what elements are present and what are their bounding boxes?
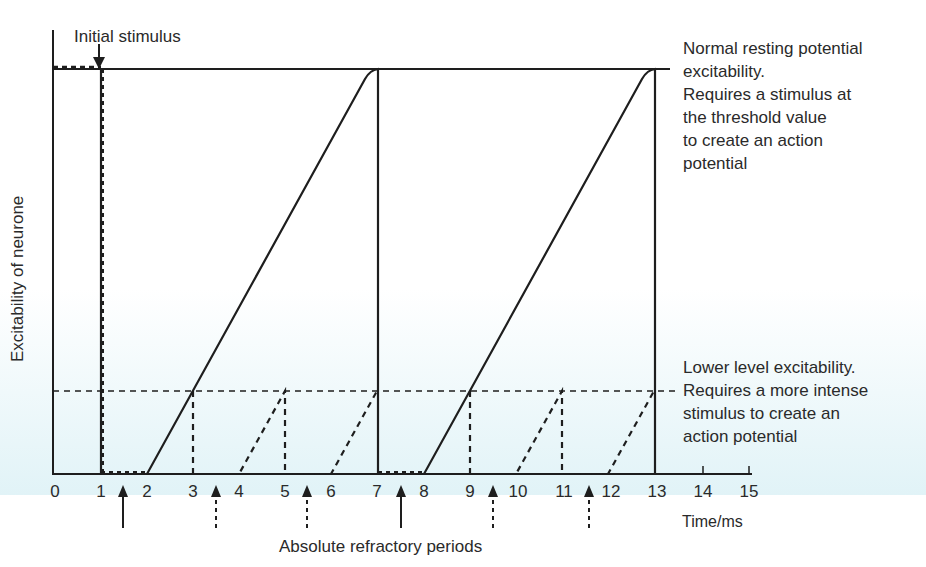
initial-stimulus-arrow-icon	[93, 57, 105, 69]
x-tick-label: 2	[142, 482, 151, 502]
x-tick-label: 1	[96, 482, 105, 502]
x-tick-label: 13	[648, 482, 667, 502]
x-tick-label: 8	[419, 482, 428, 502]
x-tick-label: 5	[280, 482, 289, 502]
excitability-diagram: Initial stimulus Excitability of neurone…	[0, 0, 926, 567]
x-tick-label: 6	[326, 482, 335, 502]
x-axis-label: Time/ms	[682, 511, 743, 533]
normal-level-note: Normal resting potential excitability. R…	[683, 37, 863, 175]
x-tick-label: 11	[555, 482, 573, 502]
y-axis-label: Excitability of neurone	[8, 196, 28, 362]
x-tick-label: 7	[372, 482, 381, 502]
x-tick-label: 4	[234, 482, 243, 502]
x-tick-label: 10	[509, 482, 528, 502]
x-tick-label: 14	[694, 482, 713, 502]
x-tick-label: 15	[740, 482, 759, 502]
x-tick-label: 9	[465, 482, 474, 502]
x-tick-label: 3	[188, 482, 197, 502]
x-tick-label: 12	[602, 482, 621, 502]
absolute-refractory-label: Absolute refractory periods	[279, 536, 482, 558]
x-tick-label: 0	[50, 482, 59, 502]
initial-stimulus-label: Initial stimulus	[74, 26, 181, 48]
lower-level-note: Lower level excitability. Requires a mor…	[683, 356, 868, 448]
